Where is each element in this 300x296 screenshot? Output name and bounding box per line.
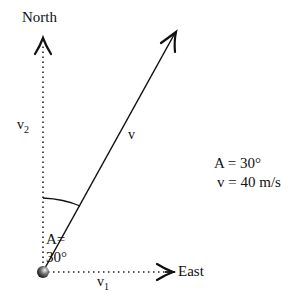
angle-label-line1: A=: [46, 232, 65, 247]
v1-symbol: v: [97, 274, 104, 289]
v2-subscript: 2: [24, 124, 29, 135]
v2-label: v2: [17, 118, 29, 135]
angle-arc: [43, 198, 80, 206]
v-label: v: [128, 128, 135, 142]
angle-value: A = 30°: [214, 154, 281, 173]
vector-diagram: [0, 0, 300, 296]
angle-label-line2: 30°: [46, 250, 67, 265]
velocity-value: v = 40 m/s: [214, 173, 281, 192]
east-label: East: [178, 264, 204, 279]
north-label: North: [22, 10, 57, 25]
v1-label: v1: [97, 275, 109, 292]
velocity-arrowhead-icon: [161, 32, 176, 52]
v1-subscript: 1: [104, 281, 109, 292]
given-values: A = 30° v = 40 m/s: [214, 154, 281, 192]
v2-symbol: v: [17, 117, 24, 132]
origin-ball-icon: [37, 266, 49, 278]
